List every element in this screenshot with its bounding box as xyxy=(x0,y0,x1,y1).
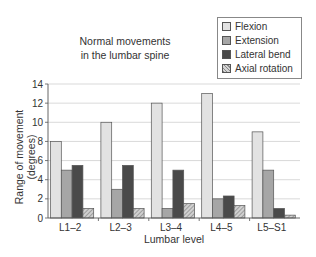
bar-lateral-bend-4 xyxy=(274,208,285,218)
y-tick-label: 6 xyxy=(37,155,43,166)
bar-extension-0 xyxy=(61,170,72,218)
x-tick-label: L1–2 xyxy=(59,222,82,233)
bar-axial-rotation-0 xyxy=(83,208,94,218)
bar-extension-1 xyxy=(112,189,123,218)
bar-extension-3 xyxy=(213,199,224,218)
bar-extension-4 xyxy=(263,170,274,218)
y-tick-label: 14 xyxy=(32,79,44,90)
bar-flexion-2 xyxy=(151,103,162,218)
bar-flexion-1 xyxy=(101,122,112,218)
bar-flexion-4 xyxy=(252,132,263,218)
bar-axial-rotation-3 xyxy=(234,206,245,218)
bar-extension-2 xyxy=(162,208,173,218)
bar-lateral-bend-2 xyxy=(173,170,184,218)
y-tick-label: 8 xyxy=(37,136,43,147)
bar-flexion-3 xyxy=(202,94,213,218)
bar-axial-rotation-1 xyxy=(133,208,144,218)
y-tick-label: 10 xyxy=(32,117,44,128)
x-tick-label: L2–3 xyxy=(109,222,132,233)
bar-flexion-0 xyxy=(51,141,62,218)
x-tick-label: L3–4 xyxy=(160,222,183,233)
y-tick-label: 2 xyxy=(37,193,43,204)
bar-lateral-bend-1 xyxy=(123,165,134,218)
bars xyxy=(51,94,296,218)
plot-area: 02468101214L1–2L2–3L3–4L4–5L5–S1 xyxy=(0,0,316,257)
bar-axial-rotation-2 xyxy=(184,204,195,218)
x-tick-label: L5–S1 xyxy=(257,222,286,233)
y-tick-label: 12 xyxy=(32,98,44,109)
y-tick-label: 0 xyxy=(37,213,43,224)
bar-lateral-bend-3 xyxy=(223,196,234,218)
y-tick-label: 4 xyxy=(37,174,43,185)
x-tick-label: L4–5 xyxy=(210,222,233,233)
bar-lateral-bend-0 xyxy=(72,165,83,218)
